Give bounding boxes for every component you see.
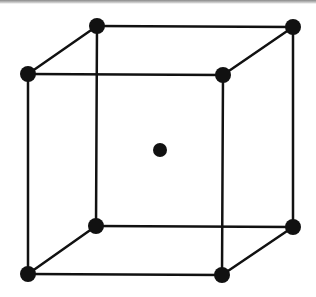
edge-front-bottom-left-to-front-bottom-right	[28, 274, 222, 275]
atom-back-bottom-right	[285, 219, 301, 235]
atom-front-top-left	[20, 66, 36, 82]
atom-front-top-right	[215, 67, 231, 83]
edge-front-top-left-to-front-top-right	[28, 74, 223, 75]
atom-front-bottom-right	[214, 267, 230, 283]
edge-back-bottom-right-to-front-bottom-right	[222, 227, 293, 275]
edge-back-bottom-left-to-back-bottom-right	[96, 226, 293, 227]
cube-atoms	[20, 18, 301, 283]
edge-front-top-right-to-front-bottom-right	[222, 75, 223, 275]
edge-back-top-left-to-back-bottom-left	[96, 26, 97, 226]
edge-back-bottom-left-to-front-bottom-left	[28, 226, 96, 274]
edge-back-top-right-to-front-top-right	[223, 27, 293, 75]
atom-back-top-left	[89, 18, 105, 34]
atom-back-top-right	[285, 19, 301, 35]
edge-back-top-left-to-back-top-right	[97, 26, 293, 27]
atom-body-center	[153, 143, 167, 157]
bcc-cube-diagram	[0, 0, 316, 297]
atom-front-bottom-left	[20, 266, 36, 282]
edge-back-top-left-to-front-top-left	[28, 26, 97, 74]
atom-back-bottom-left	[88, 218, 104, 234]
